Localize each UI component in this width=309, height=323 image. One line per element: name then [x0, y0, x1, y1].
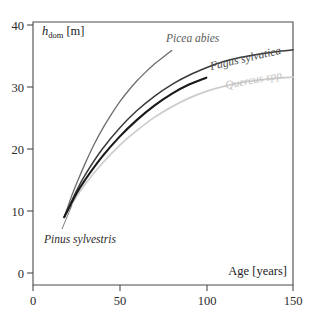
x-tick-label-0: 0	[30, 294, 36, 308]
x-tick-label-50: 50	[114, 294, 127, 308]
x-axis-title: Age [years]	[228, 264, 287, 278]
label-picea-abies: Picea abies	[165, 32, 220, 44]
dominant-height-age-chart: 0 10 20 30 40 0 50 100 150 hdom[m] Age […	[0, 0, 309, 323]
x-tick-label-100: 100	[198, 294, 217, 308]
x-tick-label-150: 150	[284, 294, 303, 308]
y-axis-title-subscript: dom	[48, 30, 64, 40]
y-tick-label-20: 20	[12, 143, 25, 157]
label-pinus-sylvestris: Pinus sylvestris	[43, 233, 116, 246]
chart-figure: 0 10 20 30 40 0 50 100 150 hdom[m] Age […	[0, 0, 309, 323]
y-axis-title-unit: [m]	[66, 24, 84, 38]
y-tick-label-10: 10	[12, 205, 25, 219]
y-tick-label-0: 0	[18, 267, 24, 281]
y-tick-label-30: 30	[12, 81, 25, 95]
y-tick-label-40: 40	[12, 19, 25, 33]
